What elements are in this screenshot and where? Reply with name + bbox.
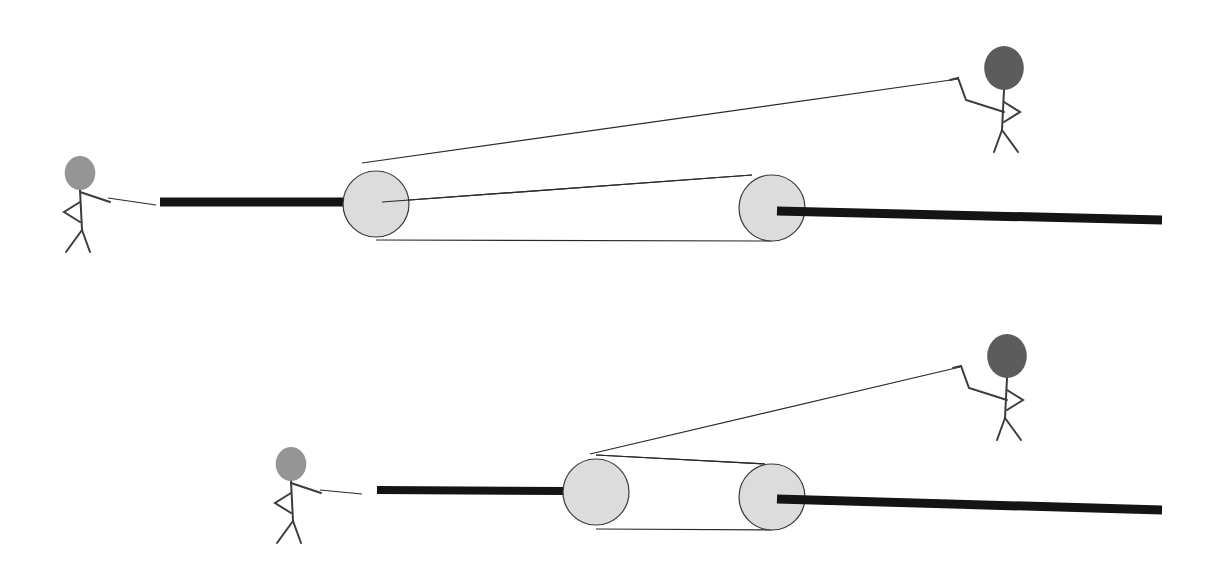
stick-arm-akimbo: [1007, 390, 1023, 410]
rope-2: [376, 240, 772, 241]
scene-bottom: [275, 334, 1162, 543]
pulley-left-icon: [563, 459, 629, 525]
rope-3: [108, 198, 156, 205]
stick-leg-left: [277, 521, 293, 543]
stick-leg-right: [997, 418, 1005, 440]
person-left: [64, 156, 110, 252]
stick-body: [1002, 90, 1004, 130]
stick-leg-right: [293, 521, 301, 543]
head-icon: [984, 46, 1024, 90]
stick-arm-pulling: [291, 483, 321, 493]
rope-inner: [382, 175, 752, 202]
person-right: [950, 46, 1024, 152]
head-icon: [276, 447, 307, 481]
stick-arm-pulling: [80, 192, 110, 202]
stick-body: [80, 190, 82, 230]
stick-arm-akimbo: [275, 493, 291, 513]
rope-2: [596, 529, 772, 530]
right-bar: [777, 211, 1162, 220]
rope-inner: [596, 455, 765, 464]
head-icon: [65, 156, 96, 190]
stick-body: [291, 481, 293, 521]
stick-leg-right: [82, 230, 90, 252]
diagram-canvas: [0, 0, 1222, 568]
stick-leg-left: [66, 230, 82, 252]
left-bar: [377, 490, 565, 491]
stick-leg-left: [1002, 130, 1018, 152]
stick-body: [1005, 378, 1007, 418]
scene-top: [64, 46, 1162, 252]
rope-0: [590, 367, 960, 454]
stick-leg-right: [994, 130, 1002, 152]
person-left: [275, 447, 321, 543]
stick-arm-akimbo: [64, 202, 80, 222]
stick-arm-akimbo: [1004, 102, 1020, 122]
stick-leg-left: [1005, 418, 1021, 440]
pulley-diagram: [0, 0, 1222, 568]
person-right: [953, 334, 1027, 440]
pulley-left-icon: [343, 171, 409, 237]
rope-0: [362, 79, 958, 163]
head-icon: [987, 334, 1027, 378]
right-bar: [777, 499, 1162, 510]
rope-3: [320, 490, 362, 494]
